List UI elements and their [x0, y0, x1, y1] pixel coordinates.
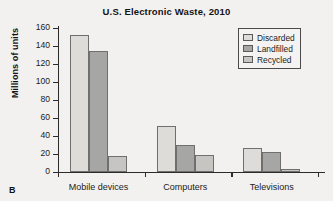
legend-label: Discarded — [257, 33, 295, 43]
bar-recycled[interactable] — [281, 169, 300, 172]
category-label: Mobile devices — [54, 182, 144, 192]
bar-recycled[interactable] — [108, 156, 127, 172]
chart-legend: DiscardedLandfilledRecycled — [238, 28, 301, 69]
legend-label: Landfilled — [257, 44, 293, 54]
y-tick-label: 160 — [36, 22, 50, 32]
y-tick-label: 40 — [40, 130, 50, 140]
panel-letter: B — [9, 185, 16, 195]
y-tick-label: 80 — [40, 94, 50, 104]
bar-recycled[interactable] — [195, 155, 214, 172]
bar-group — [58, 28, 145, 172]
y-tick-label: 120 — [36, 58, 50, 68]
y-tick-label: 60 — [40, 112, 50, 122]
legend-swatch-icon — [243, 45, 253, 52]
x-tick — [231, 172, 232, 177]
x-tick — [145, 172, 146, 177]
chart-title: U.S. Electronic Waste, 2010 — [0, 6, 333, 17]
legend-swatch-icon — [243, 34, 253, 41]
legend-item[interactable]: Discarded — [243, 32, 295, 43]
y-tick-label: 100 — [36, 76, 50, 86]
legend-item[interactable]: Landfilled — [243, 43, 295, 54]
legend-swatch-icon — [243, 56, 253, 63]
y-axis-label: Millions of units — [10, 8, 20, 118]
x-tick — [318, 172, 319, 177]
bar-discarded[interactable] — [157, 126, 176, 172]
legend-item[interactable]: Recycled — [243, 54, 295, 65]
category-label: Televisions — [227, 182, 317, 192]
legend-label: Recycled — [257, 55, 291, 65]
bar-discarded[interactable] — [70, 35, 89, 172]
x-tick — [58, 172, 59, 177]
category-label: Computers — [140, 182, 230, 192]
y-tick-label: 140 — [36, 40, 50, 50]
bar-landfilled[interactable] — [262, 152, 281, 172]
chart-figure: U.S. Electronic Waste, 2010 Millions of … — [0, 0, 333, 201]
bar-group — [145, 28, 232, 172]
bar-landfilled[interactable] — [176, 145, 195, 172]
y-tick-label: 20 — [40, 148, 50, 158]
y-tick-label: 0 — [45, 166, 50, 176]
x-axis-line — [57, 172, 325, 173]
bar-discarded[interactable] — [243, 148, 262, 172]
bar-landfilled[interactable] — [89, 51, 108, 172]
